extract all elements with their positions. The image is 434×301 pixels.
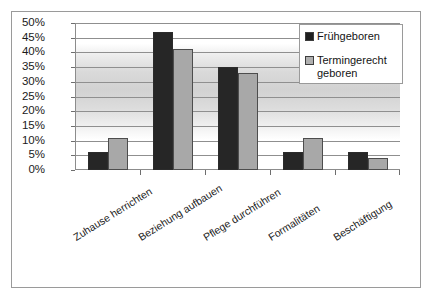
x-axis-tick-mark	[270, 170, 271, 175]
x-axis-category-label: Formalitäten	[266, 203, 321, 243]
legend-item-1[interactable]: Termingerecht geboren	[305, 54, 398, 80]
chart-frame: 0%5%10%15%20%25%30%35%40%45%50% Zuhause …	[11, 11, 421, 288]
y-axis-tick-label: 50%	[0, 17, 45, 29]
x-axis-category-label: Beschäftigung	[331, 198, 393, 242]
bar[interactable]	[88, 152, 108, 170]
bar[interactable]	[153, 32, 173, 170]
bar[interactable]	[348, 152, 368, 170]
y-axis-tick-label: 45%	[0, 32, 45, 44]
y-axis-tick-label: 40%	[0, 47, 45, 59]
legend-label-0: Frühgeboren	[317, 30, 380, 43]
legend-item-0[interactable]: Frühgeboren	[305, 30, 398, 43]
bar-group	[75, 23, 140, 170]
x-axis-tick-mark	[399, 170, 400, 175]
bar[interactable]	[218, 67, 238, 170]
y-axis-tick-label: 5%	[0, 150, 45, 162]
bar[interactable]	[173, 49, 193, 170]
y-axis-tick-label: 30%	[0, 76, 45, 88]
y-axis-tick-label: 10%	[0, 135, 45, 147]
legend-swatch-dark-icon	[305, 32, 314, 41]
x-axis-tick-mark	[205, 170, 206, 175]
y-axis-tick-label: 20%	[0, 105, 45, 117]
y-axis-tick-label: 15%	[0, 120, 45, 132]
y-axis-tick-label: 0%	[0, 164, 45, 176]
y-axis-tick-label: 35%	[0, 61, 45, 73]
legend-swatch-light-icon	[305, 56, 314, 65]
x-axis-tick-mark	[335, 170, 336, 175]
bar[interactable]	[303, 138, 323, 170]
bar-group	[140, 23, 205, 170]
y-axis-tick-label: 25%	[0, 91, 45, 103]
bar[interactable]	[108, 138, 128, 170]
chart-legend: Frühgeboren Termingerecht geboren	[299, 24, 403, 84]
bar[interactable]	[238, 73, 258, 170]
legend-label-1: Termingerecht geboren	[317, 54, 398, 80]
bar[interactable]	[368, 158, 388, 170]
x-axis-tick-mark	[140, 170, 141, 175]
bar[interactable]	[283, 152, 303, 170]
y-axis-tick-mark	[71, 170, 75, 171]
bar-group	[205, 23, 270, 170]
